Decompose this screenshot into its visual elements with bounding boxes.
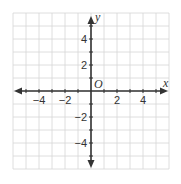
x-axis-left-arrow-icon bbox=[14, 88, 22, 95]
x-tick-label: 2 bbox=[114, 94, 120, 106]
x-axis-label: x bbox=[162, 76, 169, 90]
x-tick-label: −2 bbox=[59, 94, 72, 106]
y-axis-down-arrow-icon bbox=[88, 160, 95, 168]
y-tick-label: −2 bbox=[74, 111, 87, 123]
y-tick-label: 2 bbox=[81, 59, 87, 71]
coordinate-plane: −4−22442−2−4 x y O bbox=[0, 0, 181, 184]
y-axis-up-arrow-icon bbox=[88, 16, 95, 24]
x-tick-label: 4 bbox=[140, 94, 146, 106]
x-tick-label: −4 bbox=[33, 94, 46, 106]
origin-label: O bbox=[94, 77, 103, 91]
y-axis-label: y bbox=[94, 10, 101, 24]
y-tick-label: −4 bbox=[74, 137, 87, 149]
y-tick-label: 4 bbox=[81, 33, 87, 45]
